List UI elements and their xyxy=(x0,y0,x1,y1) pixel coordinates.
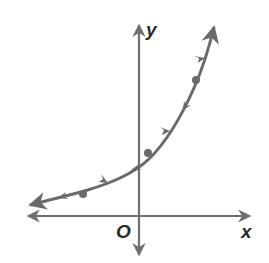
data-point xyxy=(144,149,152,157)
x-axis-label: x xyxy=(241,222,252,241)
arrow-mark-icon xyxy=(99,174,108,183)
exponential-graph xyxy=(0,0,269,263)
curve-direction-arrows xyxy=(58,56,205,199)
y-axis-label: y xyxy=(146,20,157,39)
data-point xyxy=(192,76,200,84)
data-point xyxy=(79,190,87,198)
exponential-curve xyxy=(30,27,214,205)
origin-label: O xyxy=(116,222,131,241)
